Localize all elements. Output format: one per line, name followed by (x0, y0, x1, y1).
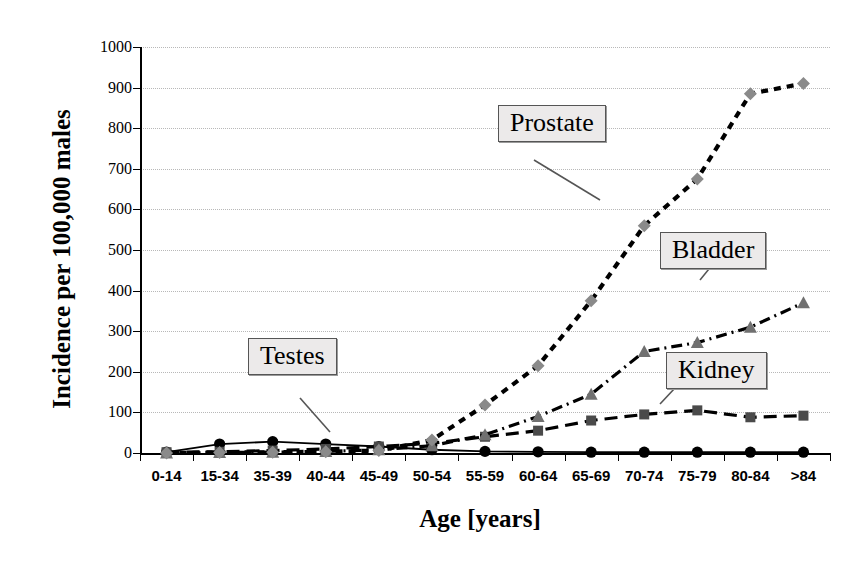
x-tick-label: >84 (763, 467, 843, 484)
y-tick-mark (133, 291, 140, 292)
x-tick-mark (299, 453, 300, 461)
x-tick-mark (352, 453, 353, 461)
x-tick-mark (405, 453, 406, 461)
data-point-square (745, 412, 755, 422)
y-tick-label: 0 (72, 445, 132, 461)
series-label-prostate: Prostate (498, 105, 606, 142)
data-point-diamond (797, 77, 810, 90)
x-tick-mark (618, 453, 619, 461)
data-point-diamond (479, 399, 492, 412)
y-tick-label: 300 (72, 323, 132, 339)
x-tick-mark (458, 453, 459, 461)
y-tick-label: 500 (72, 242, 132, 258)
y-tick-mark (133, 209, 140, 210)
y-tick-label: 800 (72, 120, 132, 136)
data-point-circle (692, 447, 703, 458)
x-tick-mark (671, 453, 672, 461)
data-point-triangle (532, 410, 545, 422)
y-tick-mark (133, 412, 140, 413)
y-tick-label: 200 (72, 364, 132, 380)
x-tick-mark (512, 453, 513, 461)
data-point-circle (267, 436, 278, 447)
y-tick-label: 900 (72, 80, 132, 96)
data-point-circle (532, 446, 543, 457)
y-tick-mark (133, 169, 140, 170)
y-tick-mark (133, 453, 140, 454)
data-point-circle (639, 447, 650, 458)
data-point-square (639, 409, 649, 419)
data-point-square (533, 426, 543, 436)
x-tick-mark (830, 453, 831, 461)
x-tick-mark (565, 453, 566, 461)
y-tick-label: 1000 (72, 39, 132, 55)
incidence-by-age-chart: Incidence per 100,000 males Age [years] … (0, 0, 857, 569)
data-point-circle (479, 446, 490, 457)
y-tick-mark (133, 250, 140, 251)
y-tick-label: 400 (72, 283, 132, 299)
data-point-diamond (691, 172, 704, 185)
y-tick-mark (133, 47, 140, 48)
y-tick-mark (133, 331, 140, 332)
x-tick-mark (140, 453, 141, 461)
data-point-square (692, 405, 702, 415)
data-point-diamond (532, 359, 545, 372)
series-label-testes: Testes (248, 338, 337, 375)
data-point-triangle (797, 296, 810, 308)
y-tick-label: 600 (72, 201, 132, 217)
data-point-diamond (744, 87, 757, 100)
data-point-circle (798, 447, 809, 458)
x-tick-mark (724, 453, 725, 461)
data-point-circle (745, 447, 756, 458)
y-tick-label: 700 (72, 161, 132, 177)
data-point-square (586, 416, 596, 426)
y-tick-mark (133, 88, 140, 89)
x-tick-mark (777, 453, 778, 461)
series-label-kidney: Kidney (666, 352, 767, 389)
y-tick-label: 100 (72, 404, 132, 420)
series-label-bladder: Bladder (660, 232, 766, 269)
data-point-circle (586, 447, 597, 458)
y-tick-mark (133, 128, 140, 129)
y-tick-mark (133, 372, 140, 373)
data-point-square (798, 411, 808, 421)
x-axis-title: Age [years] (130, 505, 830, 533)
